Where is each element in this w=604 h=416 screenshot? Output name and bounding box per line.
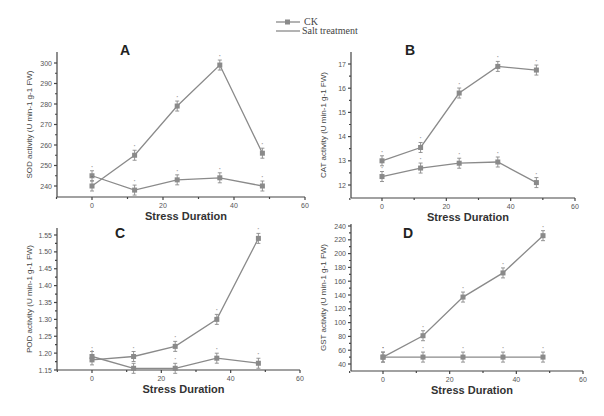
y-tick-label: 240 <box>40 183 52 190</box>
significance-mark: * <box>381 166 383 171</box>
data-point <box>418 145 423 150</box>
y-tick-label: 1.50 <box>38 248 52 255</box>
significance-mark: * <box>536 172 538 177</box>
y-tick-label: 80 <box>338 333 346 340</box>
y-tick-label: 1.20 <box>38 350 52 357</box>
x-tick-label: 20 <box>446 376 454 383</box>
significance-mark: * <box>502 262 504 267</box>
panels: 0204060240250260270280290300AStress Dura… <box>25 42 587 396</box>
x-tick-label: 40 <box>512 376 520 383</box>
y-tick-label: 1.40 <box>38 282 52 289</box>
data-point <box>173 344 178 349</box>
significance-mark: * <box>458 82 460 87</box>
data-point <box>173 366 178 371</box>
significance-mark: * <box>133 346 135 351</box>
y-tick-label: 15 <box>338 109 346 116</box>
x-axis-title: Stress Duration <box>143 383 225 395</box>
data-point <box>90 357 95 362</box>
y-tick-label: 14 <box>338 133 346 140</box>
y-tick-label: 140 <box>334 292 346 299</box>
x-tick-label: 0 <box>381 376 385 383</box>
panel-letter: A <box>120 42 130 58</box>
y-tick-label: 1.55 <box>38 232 52 239</box>
y-tick-label: 12 <box>338 182 346 189</box>
x-axis-title: Stress Duration <box>431 384 513 396</box>
y-tick-label: 220 <box>334 236 346 243</box>
significance-mark: * <box>422 325 424 330</box>
x-axis-title: Stress Duration <box>427 211 509 223</box>
y-axis-title: CAT activity (U min-1 g-1 FW) <box>319 72 328 178</box>
y-tick-label: 260 <box>40 142 52 149</box>
significance-mark: * <box>174 357 176 362</box>
data-point <box>418 166 423 171</box>
panel-b: 0204060121314151617BStress DurationCAT a… <box>319 42 579 223</box>
y-tick-label: 290 <box>40 80 52 87</box>
significance-mark: * <box>422 346 424 351</box>
x-tick-label: 20 <box>442 203 450 210</box>
y-tick-label: 1.45 <box>38 265 52 272</box>
significance-mark: * <box>462 286 464 291</box>
y-tick-label: 120 <box>334 305 346 312</box>
data-point <box>501 355 506 360</box>
panel-d: 0204060406080100120140160180200220240DSt… <box>319 223 587 397</box>
significance-mark: * <box>420 157 422 162</box>
significance-mark: * <box>258 227 260 232</box>
series-salt-treatment: ***** <box>381 225 546 362</box>
x-tick-label: 0 <box>380 203 384 210</box>
series-salt-treatment: ***** <box>380 55 539 165</box>
significance-mark: * <box>542 346 544 351</box>
significance-mark: * <box>216 308 218 313</box>
legend-salt-label: Salt treatment <box>302 25 358 36</box>
significance-mark: * <box>462 346 464 351</box>
x-tick-label: 60 <box>579 376 587 383</box>
significance-mark: * <box>458 152 460 157</box>
data-point <box>214 356 219 361</box>
significance-mark: * <box>502 346 504 351</box>
x-tick-label: 60 <box>301 202 309 209</box>
x-tick-label: 0 <box>90 375 94 382</box>
significance-mark: * <box>216 347 218 352</box>
panel-letter: D <box>403 225 413 241</box>
data-point <box>541 355 546 360</box>
significance-mark: * <box>497 55 499 60</box>
x-axis-title: Stress Duration <box>145 210 227 222</box>
y-tick-label: 13 <box>338 157 346 164</box>
y-tick-label: 270 <box>40 121 52 128</box>
significance-mark: * <box>542 225 544 230</box>
significance-mark: * <box>134 144 136 149</box>
data-point <box>380 158 385 163</box>
data-point <box>501 270 506 275</box>
data-point <box>131 366 136 371</box>
y-tick-label: 300 <box>40 60 52 67</box>
y-tick-label: 40 <box>338 361 346 368</box>
data-point <box>534 68 539 73</box>
significance-mark: * <box>382 346 384 351</box>
figure: CK Salt treatment 0204060240250260270280… <box>0 0 604 416</box>
data-point <box>461 295 466 300</box>
y-tick-label: 240 <box>334 223 346 230</box>
significance-mark: * <box>420 136 422 141</box>
y-axis-title: SOD activity (U min-1 g-1 FW) <box>25 70 34 178</box>
x-tick-label: 0 <box>90 202 94 209</box>
y-tick-label: 16 <box>338 85 346 92</box>
significance-mark: * <box>262 142 264 147</box>
panel-letter: C <box>115 225 125 241</box>
y-tick-label: 250 <box>40 162 52 169</box>
significance-mark: * <box>134 179 136 184</box>
y-tick-label: 100 <box>334 319 346 326</box>
data-point <box>214 317 219 322</box>
y-tick-label: 180 <box>334 264 346 271</box>
legend-ck-marker-icon <box>285 20 290 25</box>
data-point <box>457 161 462 166</box>
y-tick-label: 1.15 <box>38 367 52 374</box>
data-point <box>217 175 222 180</box>
data-point <box>256 236 261 241</box>
y-tick-label: 1.30 <box>38 316 52 323</box>
x-tick-label: 40 <box>230 202 238 209</box>
data-point <box>256 361 261 366</box>
y-tick-label: 280 <box>40 101 52 108</box>
x-tick-label: 60 <box>571 203 579 210</box>
x-tick-label: 20 <box>157 375 165 382</box>
significance-mark: * <box>176 169 178 174</box>
significance-mark: * <box>497 151 499 156</box>
